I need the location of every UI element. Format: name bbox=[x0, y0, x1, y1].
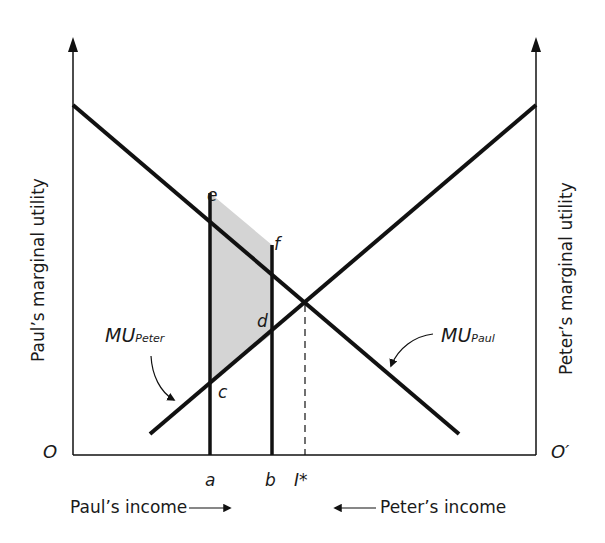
shaded-area-cefd bbox=[210, 193, 272, 382]
mu-paul-curve bbox=[73, 105, 459, 434]
point-label-e: e bbox=[207, 185, 217, 205]
point-label-f: f bbox=[274, 234, 280, 254]
right-y-axis-label: Peter’s marginal utility bbox=[556, 182, 576, 375]
mu-peter-pointer-arrow-icon bbox=[151, 356, 174, 400]
mu-peter-label: MUPeter bbox=[105, 324, 164, 346]
mu-paul-label: MUPaul bbox=[441, 324, 495, 346]
mu-peter-label-main: MU bbox=[105, 324, 135, 346]
diagram-canvas bbox=[0, 0, 605, 543]
mu-peter-label-sub: Peter bbox=[135, 332, 164, 345]
point-label-c: c bbox=[218, 382, 227, 402]
mu-paul-pointer-arrow-icon bbox=[391, 334, 433, 366]
right-axis-arrow-icon bbox=[531, 37, 541, 52]
x-marker-a: a bbox=[205, 470, 215, 490]
x-marker-b: b bbox=[265, 470, 276, 490]
left-axis-arrow-icon bbox=[68, 37, 78, 52]
point-label-d: d bbox=[257, 311, 268, 331]
mu-paul-label-sub: Paul bbox=[471, 332, 494, 345]
mu-paul-label-main: MU bbox=[441, 324, 471, 346]
mu-peter-curve bbox=[150, 105, 536, 434]
origin-right-label: O′ bbox=[551, 441, 569, 462]
paul-income-label: Paul’s income bbox=[70, 497, 187, 517]
x-marker-istar: I* bbox=[294, 470, 308, 490]
left-y-axis-label: Paul’s marginal utility bbox=[28, 178, 48, 362]
peter-income-label: Peter’s income bbox=[380, 497, 506, 517]
origin-left-label: O bbox=[43, 441, 57, 462]
